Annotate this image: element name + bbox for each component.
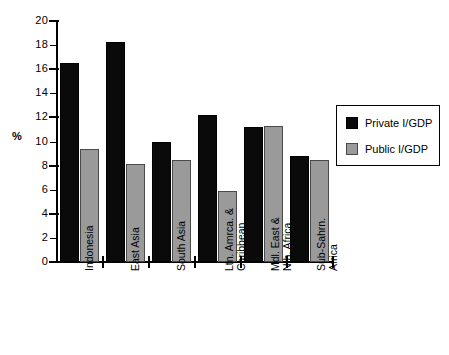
y-tick-label-18: 18 (4, 39, 48, 50)
y-tick-label-wrap-20: 20 (0, 15, 48, 26)
bar-private-1 (106, 42, 125, 263)
x-axis-label-3: Ltn. Amrca. & Caribbean (224, 151, 247, 271)
bar-chart: % 02468101214161820 IndonesiaEast AsiaSo… (0, 0, 449, 355)
y-tick-label-0: 0 (4, 256, 48, 267)
legend-item-private: Private I/GDP (346, 115, 431, 130)
y-tick-label-16: 16 (4, 63, 48, 74)
y-tick-label-14: 14 (4, 87, 48, 98)
y-tick-label-2: 2 (4, 232, 48, 243)
x-tick-1 (148, 256, 150, 268)
x-axis-label-2: South Asia (176, 151, 188, 271)
y-tick-label-wrap-6: 6 (0, 184, 48, 195)
y-tick-label-20: 20 (4, 15, 48, 26)
y-tick-label-wrap-14: 14 (0, 87, 48, 98)
legend-label-private: Private I/GDP (365, 117, 432, 129)
x-axis-label-1: East Asia (130, 151, 142, 271)
x-axis-label-4: Mdl. East & Nth. Africa (270, 151, 293, 271)
y-tick-label-wrap-16: 16 (0, 63, 48, 74)
bar-private-0 (60, 63, 79, 262)
y-tick-label-4: 4 (4, 208, 48, 219)
legend-label-public: Public I/GDP (365, 143, 428, 155)
y-tick-label-wrap-0: 0 (0, 256, 48, 267)
y-tick-label-wrap-12: 12 (0, 111, 48, 122)
x-tick-0 (102, 256, 104, 268)
y-tick-label-wrap-18: 18 (0, 39, 48, 50)
y-tick-label-6: 6 (4, 184, 48, 195)
y-tick-label-10: 10 (4, 136, 48, 147)
legend-swatch-gray-square (346, 143, 358, 155)
y-tick-label-12: 12 (4, 111, 48, 122)
y-tick-label-8: 8 (4, 160, 48, 171)
y-tick-label-wrap-4: 4 (0, 208, 48, 219)
legend-swatch-black-square (346, 117, 358, 129)
legend-item-public: Public I/GDP (346, 141, 431, 156)
x-tick-2 (194, 256, 196, 268)
x-axis-label-0: Indonesia (84, 151, 96, 271)
legend: Private I/GDP Public I/GDP (336, 105, 440, 166)
y-tick-label-wrap-10: 10 (0, 136, 48, 147)
y-tick-label-wrap-8: 8 (0, 160, 48, 171)
bar-private-3 (198, 115, 217, 262)
bar-private-2 (152, 142, 171, 263)
y-tick-label-wrap-2: 2 (0, 232, 48, 243)
x-axis-label-5: Sub-Sahrn. Africa (316, 151, 339, 271)
